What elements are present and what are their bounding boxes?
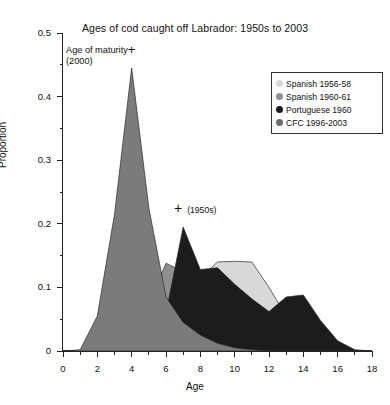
legend-item: Spanish 1956-58	[276, 77, 377, 90]
plus-marker-icon: +	[174, 200, 182, 216]
annotation-age-of-maturity: Age of maturity+ (2000)	[66, 45, 135, 67]
legend-swatch-icon	[276, 106, 283, 113]
x-tick-label: 6	[151, 363, 181, 374]
x-tick-label: 18	[357, 363, 387, 374]
x-tick-label: 8	[185, 363, 215, 374]
legend-item: Portuguese 1960	[276, 103, 377, 116]
legend-item: CFC 1996-2003	[276, 116, 377, 129]
annotation-line-2: (2000)	[66, 56, 93, 66]
annotation-label: (1950s)	[187, 205, 216, 215]
x-tick-label: 2	[82, 363, 112, 374]
legend-item-label: Spanish 1956-58	[286, 79, 351, 89]
y-tick-label: 0.4	[0, 91, 51, 102]
legend-item-label: Portuguese 1960	[286, 105, 351, 115]
annotation-line-1: Age of maturity	[66, 45, 128, 55]
legend-swatch-icon	[276, 80, 283, 87]
x-tick-label: 16	[323, 363, 353, 374]
y-tick-label: 0.1	[0, 281, 51, 292]
y-tick-label: 0	[0, 345, 51, 356]
y-tick-label: 0.2	[0, 218, 51, 229]
y-tick-label: 0.3	[0, 154, 51, 165]
x-tick-label: 10	[220, 363, 250, 374]
x-tick-label: 14	[288, 363, 318, 374]
chart-legend: Spanish 1956-58Spanish 1960-61Portuguese…	[271, 72, 383, 134]
x-tick-label: 12	[254, 363, 284, 374]
x-tick-label: 4	[117, 363, 147, 374]
x-axis-title: Age	[0, 381, 390, 392]
legend-swatch-icon	[276, 119, 283, 126]
legend-swatch-icon	[276, 93, 283, 100]
y-tick-label: 0.5	[0, 27, 51, 38]
legend-item: Spanish 1960-61	[276, 90, 377, 103]
annotation-age-of-maturity-1950s: +(1950s)	[174, 203, 216, 216]
legend-item-label: Spanish 1960-61	[286, 92, 351, 102]
x-tick-label: 0	[48, 363, 78, 374]
plus-marker-icon: +	[128, 42, 136, 57]
chart-figure: Ages of cod caught off Labrador: 1950s t…	[0, 0, 390, 405]
legend-item-label: CFC 1996-2003	[286, 118, 347, 128]
